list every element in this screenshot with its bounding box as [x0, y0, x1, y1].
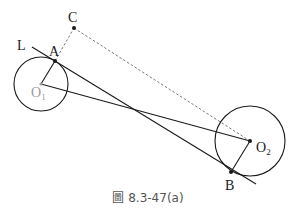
point-b [229, 170, 233, 174]
segment-a-o2-cross [55, 61, 250, 141]
label-o1: O1 [31, 85, 46, 102]
segment-o1-o2 [41, 84, 250, 141]
point-c [72, 26, 76, 30]
label-l: L [17, 38, 26, 53]
label-c: C [68, 10, 77, 25]
radius-o1-a [41, 61, 55, 84]
dashed-c-o2 [74, 28, 250, 141]
geometry-figure: C L A O1 O2 B 圖 8.3-47(a) [0, 0, 298, 216]
figure-caption: 圖 8.3-47(a) [112, 191, 183, 205]
radius-o2-b [231, 141, 250, 172]
point-a [53, 59, 57, 63]
label-o2: O2 [256, 140, 271, 157]
point-o2 [248, 139, 252, 143]
label-a: A [49, 44, 60, 59]
tangent-line-L [32, 47, 256, 184]
label-b: B [225, 178, 234, 193]
